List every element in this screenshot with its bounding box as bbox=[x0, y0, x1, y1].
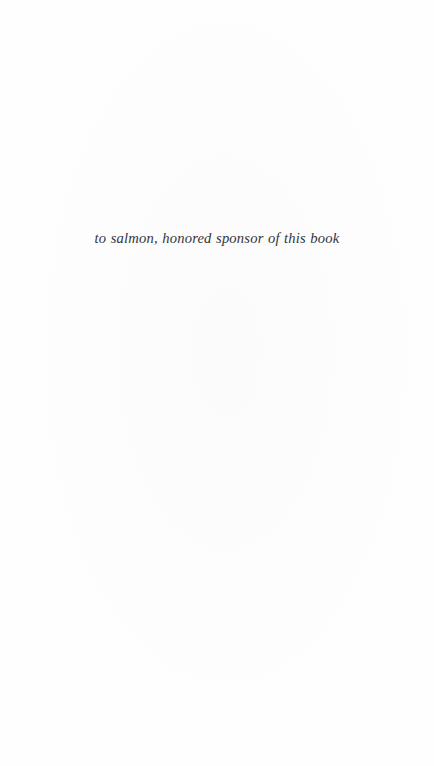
scanned-book-page: to salmon, honored sponsor of this book bbox=[0, 0, 434, 766]
dedication-text: to salmon, honored sponsor of this book bbox=[95, 229, 340, 247]
dedication-block: to salmon, honored sponsor of this book bbox=[0, 228, 434, 248]
